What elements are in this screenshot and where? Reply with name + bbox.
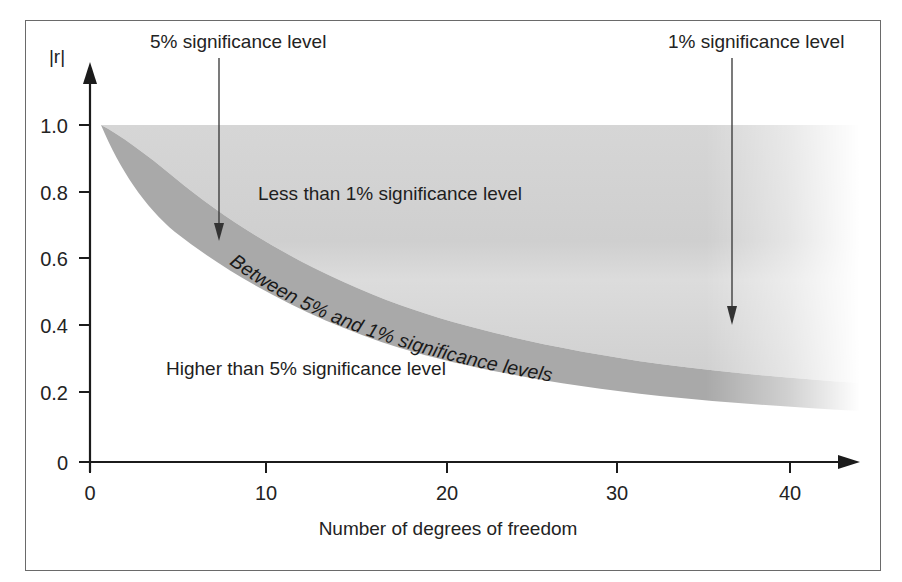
x-tick-label-30: 30 xyxy=(606,482,628,504)
x-tick-label-20: 20 xyxy=(436,482,458,504)
x-axis-title: Number of degrees of freedom xyxy=(319,518,578,539)
y-tick-label-0-8: 0.8 xyxy=(40,182,68,204)
significance-level-chart: 1.0 0.8 0.6 0.4 0.2 0 0 10 20 30 40 |r| … xyxy=(0,0,902,582)
y-axis-title: |r| xyxy=(49,46,65,67)
chart-page: 1.0 0.8 0.6 0.4 0.2 0 0 10 20 30 40 |r| … xyxy=(0,0,902,582)
y-tick-label-0-2: 0.2 xyxy=(40,382,68,404)
y-axis-arrowhead xyxy=(83,62,97,84)
y-tick-label-1-0: 1.0 xyxy=(40,115,68,137)
y-axis-ticks xyxy=(79,125,90,462)
x-axis-ticks xyxy=(90,462,790,473)
region-label-higher-than-5-percent: Higher than 5% significance level xyxy=(166,358,446,379)
x-tick-label-10: 10 xyxy=(255,482,277,504)
x-tick-label-0: 0 xyxy=(84,482,95,504)
y-tick-label-0-4: 0.4 xyxy=(40,315,68,337)
region-label-less-than-1-percent: Less than 1% significance level xyxy=(258,183,522,204)
x-tick-label-40: 40 xyxy=(779,482,801,504)
annotation-label-one-percent: 1% significance level xyxy=(668,31,844,52)
y-tick-label-0: 0 xyxy=(57,452,68,474)
x-axis-arrowhead xyxy=(838,455,860,469)
annotation-label-five-percent: 5% significance level xyxy=(150,31,326,52)
y-tick-label-0-6: 0.6 xyxy=(40,248,68,270)
